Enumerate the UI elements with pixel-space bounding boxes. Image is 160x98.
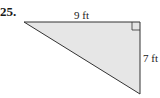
right-side-label: 7 ft <box>143 52 158 64</box>
top-side-label: 9 ft <box>74 9 89 21</box>
triangle-shape <box>24 22 140 94</box>
